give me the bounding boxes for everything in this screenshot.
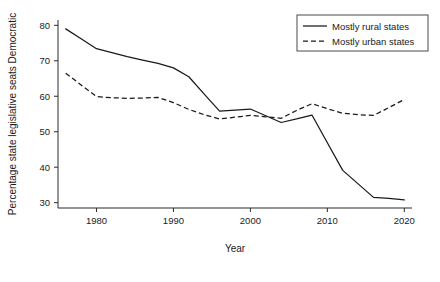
y-tick-label: 60 <box>39 91 50 102</box>
y-tick-label: 70 <box>39 55 50 66</box>
x-axis-title: Year <box>225 243 246 254</box>
y-tick-label: 30 <box>39 197 50 208</box>
line-chart-figure: 304050607080 19801990200020102020 Year P… <box>0 0 440 282</box>
series-mostly-urban-states <box>66 73 405 119</box>
chart-canvas: 304050607080 19801990200020102020 Year P… <box>0 0 440 282</box>
y-tick-label: 50 <box>39 126 50 137</box>
x-tick-label: 2020 <box>394 215 415 226</box>
x-tick-label: 2000 <box>240 215 261 226</box>
x-tick-label: 1990 <box>163 215 184 226</box>
legend-label-mostly-urban-states: Mostly urban states <box>332 36 415 47</box>
x-tick-label: 1980 <box>86 215 107 226</box>
x-axis-ticks: 19801990200020102020 <box>86 208 415 226</box>
y-tick-label: 40 <box>39 162 50 173</box>
y-axis-title: Percentage state legislative seats Democ… <box>7 13 18 215</box>
y-tick-label: 80 <box>39 20 50 31</box>
y-axis-ticks: 304050607080 <box>39 20 58 208</box>
x-tick-label: 2010 <box>317 215 338 226</box>
data-series-group <box>66 29 405 200</box>
legend-label-mostly-rural-states: Mostly rural states <box>332 21 409 32</box>
chart-legend: Mostly rural states Mostly urban states <box>297 15 428 51</box>
